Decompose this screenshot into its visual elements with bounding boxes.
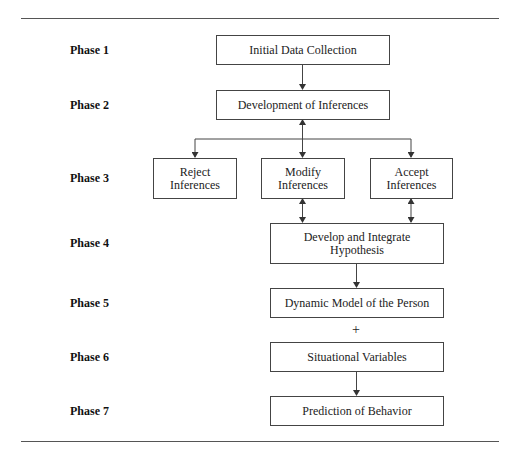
- node-label-line1: Reject: [180, 166, 211, 179]
- node-develop-integrate-hypothesis: Develop and Integrate Hypothesis: [270, 223, 444, 264]
- node-label-line2: Inferences: [170, 179, 220, 192]
- node-label-line1: Develop and Integrate: [304, 231, 411, 244]
- node-accept-inferences: Accept Inferences: [370, 158, 453, 199]
- node-label: Development of Inferences: [238, 99, 369, 112]
- node-dynamic-model-of-person: Dynamic Model of the Person: [270, 288, 444, 318]
- node-label: Initial Data Collection: [249, 44, 356, 57]
- node-situational-variables: Situational Variables: [270, 342, 444, 372]
- node-label-line2: Hypothesis: [330, 244, 384, 257]
- connector-lines: [0, 0, 524, 454]
- node-label: Prediction of Behavior: [302, 405, 411, 418]
- node-initial-data-collection: Initial Data Collection: [216, 35, 390, 65]
- node-label-line2: Inferences: [278, 179, 328, 192]
- node-modify-inferences: Modify Inferences: [261, 158, 345, 199]
- node-label-line2: Inferences: [387, 179, 437, 192]
- node-prediction-of-behavior: Prediction of Behavior: [270, 396, 444, 426]
- node-development-of-inferences: Development of Inferences: [216, 90, 390, 120]
- node-label: Situational Variables: [307, 351, 406, 364]
- node-label-line1: Accept: [395, 166, 429, 179]
- node-label-line1: Modify: [285, 166, 321, 179]
- node-label: Dynamic Model of the Person: [285, 297, 430, 310]
- node-reject-inferences: Reject Inferences: [153, 158, 237, 199]
- plus-symbol: +: [352, 323, 360, 337]
